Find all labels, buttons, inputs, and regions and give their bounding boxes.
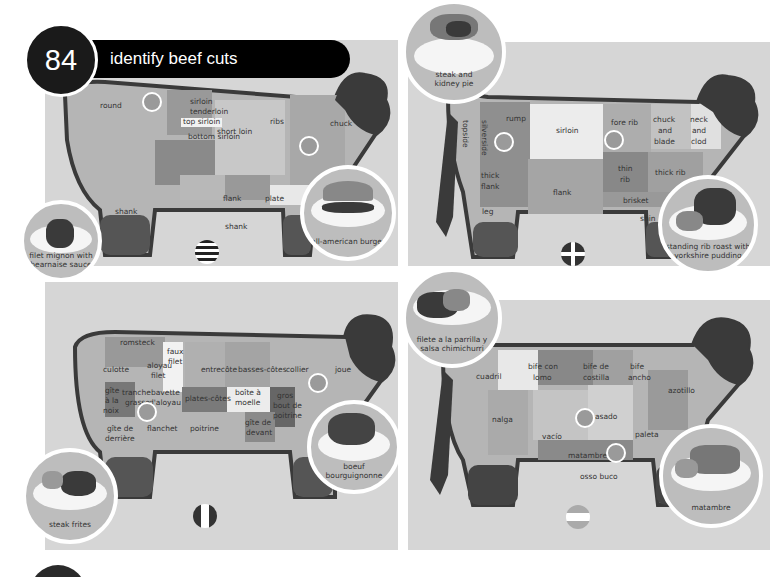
cut-label: bife con (528, 363, 558, 372)
dish-burger: all-american burger (300, 165, 396, 261)
cut-label: round (100, 102, 122, 111)
cut-label: clod (691, 138, 707, 147)
us-flag-icon (195, 240, 219, 264)
cut-label: filet (151, 372, 165, 381)
next-section-badge (30, 565, 86, 577)
cut-label: moelle (235, 399, 260, 408)
cut-label: aloyau (147, 362, 172, 371)
cut-label: flank (481, 183, 499, 192)
cut-label: shin (640, 215, 656, 224)
cut-label: joue (335, 366, 351, 375)
cut-marker (142, 92, 162, 112)
cut-label: paleta (635, 431, 659, 440)
cut-label: and (692, 127, 706, 136)
cut-label: tranche (122, 389, 151, 398)
cut-label: bife de (583, 363, 609, 372)
cut-marker (137, 402, 157, 422)
cut-label: poitrine (190, 425, 219, 434)
dish-caption: kidney pie (406, 79, 502, 88)
page-title-bar: identify beef cuts (80, 40, 350, 78)
dish-caption: steak frites (26, 520, 114, 529)
cut-label: brisket (623, 197, 648, 206)
cut-label: collier (286, 366, 309, 375)
cut-label: lomo (533, 374, 552, 383)
cut-label: cuadril (476, 373, 502, 382)
cut-label: romsteck (120, 339, 155, 348)
cut-marker (575, 408, 595, 428)
dish-filete-parrilla: filete a la parrilla ysalsa chimichurri (402, 268, 502, 368)
cut-label: blade (654, 138, 675, 147)
cut-label: devant (246, 429, 272, 438)
cut-label: top sirloin (181, 118, 222, 127)
cut-marker (494, 132, 514, 152)
dish-caption: bearnaise sauce (24, 260, 98, 269)
dish-filet-mignon: filet mignon withbearnaise sauce (20, 200, 102, 282)
cut-label: flanchet (147, 425, 178, 434)
cut-marker (308, 373, 328, 393)
dish-caption: boeuf (311, 462, 397, 471)
cut-label: vacío (542, 433, 562, 442)
cut-label: silverside (479, 120, 488, 156)
cut-label: and (658, 127, 672, 136)
cut-label: noix (103, 407, 119, 416)
cut-label: thick (481, 172, 499, 181)
cut-label: rump (506, 115, 526, 124)
dish-boeuf-bourguignonne: boeufbourguignonne (307, 400, 401, 494)
cut-label: neck (690, 116, 708, 125)
page-title: identify beef cuts (110, 49, 238, 69)
cut-label: plates-côtes (185, 395, 231, 404)
page-number-badge: 84 (24, 23, 98, 97)
cut-marker (604, 130, 624, 150)
dish-matambre: matambre (659, 424, 763, 528)
dish-caption: standing rib roast with (662, 242, 754, 251)
cut-label: shank (225, 223, 247, 232)
cut-label: tenderloin (190, 108, 228, 117)
cut-label: sirloin (190, 98, 213, 107)
cut-label: nalga (492, 416, 513, 425)
cut-label: ribs (270, 118, 284, 127)
cut-label: thick rib (655, 169, 686, 178)
cut-marker (299, 136, 319, 156)
dish-caption: filete a la parrilla y (406, 335, 498, 344)
cut-label: sirloin (556, 127, 579, 136)
cut-label: gîte de (245, 419, 271, 428)
dish-caption: bourguignonne (311, 471, 397, 480)
dish-rib-roast: standing rib roast withyorkshire pudding (658, 175, 758, 275)
cut-label: boîte à (235, 389, 261, 398)
cut-label: entrecôte (201, 366, 237, 375)
cut-marker (606, 443, 626, 463)
cut-label: gros (277, 392, 293, 401)
dish-caption: matambre (663, 503, 759, 512)
dish-steak-frites: steak frites (22, 448, 118, 544)
cut-label: gîte de (107, 425, 133, 434)
cut-label: topside (460, 120, 469, 148)
dish-steak-kidney-pie: steak andkidney pie (402, 0, 506, 104)
cut-label: asado (595, 413, 617, 422)
cut-label: matambre (568, 452, 607, 461)
argentina-flag-icon (566, 505, 590, 529)
dish-caption: steak and (406, 70, 502, 79)
cut-label: osso buco (580, 473, 618, 482)
cut-label: short loin (217, 128, 252, 137)
page-number: 84 (45, 44, 77, 77)
cut-label: bavette (151, 389, 180, 398)
cut-label: costilla (583, 374, 609, 383)
cut-label: chuck (653, 116, 675, 125)
cut-label: faux (167, 348, 183, 357)
cut-label: flank (223, 195, 241, 204)
cut-label: derrière (105, 435, 135, 444)
dish-caption: yorkshire pudding (662, 251, 754, 260)
cut-label: poitrine (273, 412, 302, 421)
uk-flag-icon (561, 242, 585, 266)
france-flag-icon (193, 504, 217, 528)
cut-label: flank (553, 189, 571, 198)
cut-label: à la (105, 397, 119, 406)
cut-label: plate (265, 195, 284, 204)
dish-caption: filet mignon with (24, 251, 98, 260)
dish-caption: salsa chimichurri (406, 344, 498, 353)
cut-label: fore rib (611, 119, 638, 128)
cut-label: leg (482, 208, 493, 217)
cut-label: bife (630, 363, 644, 372)
dish-caption: all-american burger (304, 237, 392, 246)
cut-label: basses-côtes (238, 366, 287, 375)
